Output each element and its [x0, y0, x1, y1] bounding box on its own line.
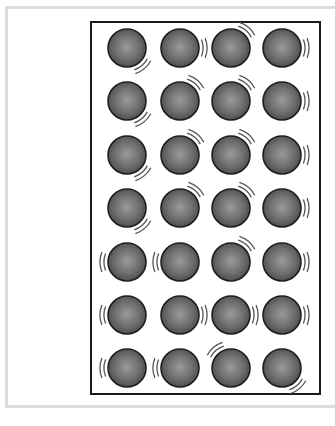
vibration-mark-icon [256, 305, 258, 325]
particle-ball [108, 189, 146, 227]
particle-ball [263, 349, 301, 387]
particle [100, 296, 146, 334]
vibration-mark-icon [157, 360, 159, 377]
vibration-mark-icon [303, 147, 305, 164]
particle [263, 296, 309, 334]
particle-ball [263, 243, 301, 281]
particle-ball [161, 296, 199, 334]
vibration-mark-icon [303, 254, 305, 271]
particle [212, 129, 255, 174]
particle-ball [108, 136, 146, 174]
particle [108, 82, 151, 127]
particle [212, 75, 255, 120]
particle-ball [212, 29, 250, 67]
vibration-mark-icon [307, 305, 309, 325]
particle-ball [263, 136, 301, 174]
particle-ball [108, 243, 146, 281]
particle [263, 136, 309, 174]
particle-ball [161, 243, 199, 281]
particle-ball [161, 189, 199, 227]
particle [161, 75, 204, 120]
particle [263, 243, 309, 281]
particle-ball [263, 296, 301, 334]
particle-ball [212, 243, 250, 281]
vibration-mark-icon [307, 198, 309, 218]
particle-ball [161, 29, 199, 67]
particle [153, 349, 199, 387]
particle [263, 82, 309, 120]
vibration-mark-icon [100, 358, 102, 378]
particle [207, 342, 250, 387]
vibration-mark-icon [307, 145, 309, 165]
vibration-mark-icon [205, 305, 207, 325]
vibration-mark-icon [153, 252, 155, 272]
vibration-mark-icon [307, 252, 309, 272]
particle [108, 136, 151, 181]
particle [212, 182, 255, 227]
vibration-mark-icon [100, 252, 102, 272]
vibration-mark-icon [303, 307, 305, 324]
particle [263, 349, 306, 394]
particle-ball [212, 189, 250, 227]
particle-ball [108, 29, 146, 67]
vibration-mark-icon [153, 358, 155, 378]
vibration-mark-icon [104, 254, 106, 271]
particle-ball [161, 82, 199, 120]
particle [161, 296, 207, 334]
vibration-mark-icon [307, 38, 309, 58]
particle [100, 349, 146, 387]
particle [161, 29, 207, 67]
particle [161, 129, 204, 174]
vibration-mark-icon [303, 200, 305, 217]
vibration-mark-icon [157, 254, 159, 271]
vibration-mark-icon [100, 305, 102, 325]
particle-ball [212, 82, 250, 120]
particle [100, 243, 146, 281]
particle-ball [161, 349, 199, 387]
particle-ball [212, 296, 250, 334]
vibration-mark-icon [201, 40, 203, 57]
particle-ball [212, 136, 250, 174]
particle [212, 22, 255, 67]
particle [263, 189, 309, 227]
particle-ball [108, 349, 146, 387]
particle-ball [108, 296, 146, 334]
vibration-mark-icon [205, 38, 207, 58]
particle-ball [161, 136, 199, 174]
particle [161, 182, 204, 227]
vibration-mark-icon [303, 40, 305, 57]
vibration-mark-icon [307, 91, 309, 111]
particle [263, 29, 309, 67]
particle-ball [263, 29, 301, 67]
particle-ball [212, 349, 250, 387]
particle-ball [108, 82, 146, 120]
particle [212, 296, 258, 334]
vibration-mark-icon [252, 307, 254, 324]
vibration-mark-icon [201, 307, 203, 324]
particle [212, 236, 255, 281]
vibration-mark-icon [303, 93, 305, 110]
vibration-mark-icon [104, 360, 106, 377]
particle-ball [263, 82, 301, 120]
particle [108, 189, 151, 234]
particle [108, 29, 151, 74]
particle-ball [263, 189, 301, 227]
particle [153, 243, 199, 281]
vibration-mark-icon [104, 307, 106, 324]
